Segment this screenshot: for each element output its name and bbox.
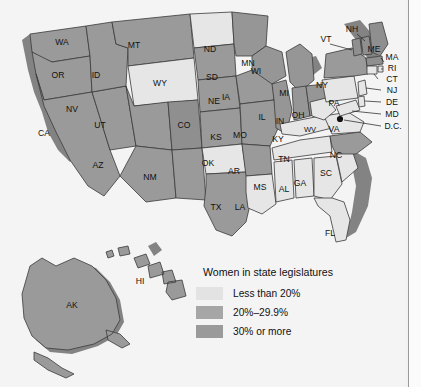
state-de[interactable] [358, 96, 365, 107]
state-ct[interactable] [367, 66, 377, 74]
legend-swatch-mid [196, 306, 223, 319]
label-ut: UT [94, 120, 106, 130]
legend-item-mid[interactable]: 20%–29.9% [196, 306, 396, 319]
label-mo: MO [233, 130, 247, 140]
label-nv: NV [66, 104, 78, 114]
legend-item-high[interactable]: 30% or more [196, 325, 396, 338]
label-az: AZ [93, 160, 104, 170]
label-nj: NJ [387, 85, 398, 95]
label-il: IL [258, 112, 265, 122]
state-nd[interactable] [190, 12, 234, 48]
label-in: IN [276, 116, 285, 126]
label-ky: KY [272, 134, 284, 144]
label-sc: SC [320, 168, 332, 178]
label-nh: NH [346, 24, 358, 34]
label-ak: AK [66, 300, 78, 310]
label-dc: D.C. [384, 121, 401, 131]
label-sd: SD [206, 72, 218, 82]
state-nm[interactable] [172, 148, 206, 200]
label-fl: FL [325, 228, 335, 238]
state-la[interactable] [246, 174, 276, 214]
label-wy: WY [153, 78, 167, 88]
label-or: OR [52, 70, 65, 80]
label-de: DE [386, 97, 398, 107]
label-md: MD [385, 109, 398, 119]
label-ia: IA [222, 92, 230, 102]
label-vt: VT [321, 34, 333, 44]
label-ms: MS [254, 182, 267, 192]
right-margin [409, 0, 421, 387]
map-figure: WA OR CA NV ID MT WY UT CO AZ NM ND SD N… [0, 0, 421, 387]
label-la: LA [235, 202, 246, 212]
state-ak[interactable] [22, 258, 130, 378]
label-pa: PA [329, 98, 340, 108]
label-hi: HI [136, 276, 145, 286]
legend-swatch-low [196, 287, 223, 300]
state-hi[interactable] [106, 246, 186, 300]
label-ne: NE [208, 96, 220, 106]
label-nc: NC [330, 150, 342, 160]
legend-label-low: Less than 20% [233, 288, 300, 299]
legend-label-mid: 20%–29.9% [233, 307, 288, 318]
legend-title: Women in state legislatures [203, 266, 396, 278]
state-md[interactable] [336, 100, 360, 116]
label-id: ID [92, 70, 101, 80]
label-ri: RI [388, 63, 397, 73]
label-tn: TN [278, 154, 289, 164]
label-ca: CA [38, 128, 50, 138]
label-co: CO [178, 120, 191, 130]
label-mi: MI [279, 88, 289, 98]
label-va: VA [329, 124, 340, 134]
label-me: ME [368, 44, 381, 54]
state-mi[interactable] [286, 44, 314, 92]
state-ar[interactable] [242, 144, 272, 176]
state-nj[interactable] [358, 80, 367, 96]
label-ny: NY [316, 80, 328, 90]
state-ms[interactable] [274, 160, 294, 202]
label-ks: KS [210, 132, 222, 142]
label-tx: TX [211, 202, 222, 212]
dc-marker-dot [337, 116, 343, 122]
label-mt: MT [128, 40, 141, 50]
label-nm: NM [143, 172, 156, 182]
legend-label-high: 30% or more [233, 326, 291, 337]
label-wi: WI [251, 66, 262, 76]
label-al: AL [279, 184, 290, 194]
label-wv: WV [304, 125, 317, 134]
label-ga: GA [294, 178, 307, 188]
label-oh: OH [292, 110, 305, 120]
state-ne[interactable] [198, 76, 240, 112]
label-ma: MA [386, 52, 399, 62]
label-wa: WA [55, 37, 69, 47]
map-legend: Women in state legislatures Less than 20… [196, 266, 396, 344]
state-vt[interactable] [352, 38, 362, 56]
label-nd: ND [204, 44, 216, 54]
label-ar: AR [228, 166, 240, 176]
legend-swatch-high [196, 325, 223, 338]
legend-item-low[interactable]: Less than 20% [196, 287, 396, 300]
state-ma[interactable] [366, 56, 383, 66]
label-ct: CT [386, 74, 398, 84]
label-ok: OK [202, 158, 215, 168]
